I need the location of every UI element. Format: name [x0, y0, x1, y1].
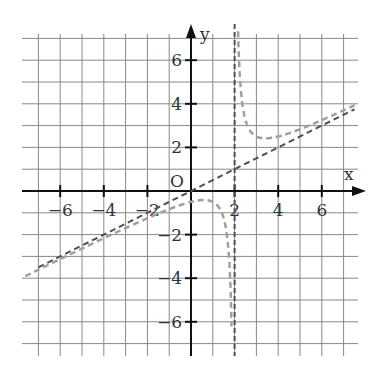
- y-axis-label: y: [199, 24, 210, 44]
- y-tick-label: −4: [157, 268, 182, 288]
- origin-label: O: [170, 171, 184, 191]
- x-tick-label: 4: [273, 200, 284, 220]
- oblique-asymptote: [38, 109, 354, 267]
- x-tick-label: 6: [316, 200, 327, 220]
- x-axis-label: x: [344, 164, 354, 184]
- y-tick-label: −6: [157, 312, 182, 332]
- y-tick-label: 6: [171, 50, 182, 70]
- function-curve-right-branch: [238, 31, 357, 138]
- y-axis-arrow-icon: [186, 24, 196, 38]
- x-tick-label: −4: [91, 200, 116, 220]
- x-tick-label: −6: [48, 200, 73, 220]
- axis-labels: x y O: [170, 24, 354, 191]
- x-axis-arrow-icon: [352, 186, 366, 196]
- function-graph: −6−4−2246642−2−4−6 x y O: [0, 0, 374, 388]
- y-tick-label: 2: [171, 137, 182, 157]
- y-tick-label: 4: [171, 94, 182, 114]
- y-tick-label: −2: [157, 225, 182, 245]
